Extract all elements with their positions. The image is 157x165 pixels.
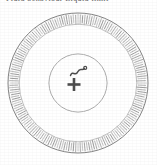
- concentric-ring-svg: [0, 0, 157, 165]
- clipped-header-text: Fluid behaviour Liquid limit: [0, 0, 157, 5]
- ring-diagram-figure: Fluid behaviour Liquid limit: [0, 0, 157, 165]
- inner-core-circle: [49, 54, 107, 112]
- clipped-header-label: Fluid behaviour Liquid limit: [6, 0, 109, 3]
